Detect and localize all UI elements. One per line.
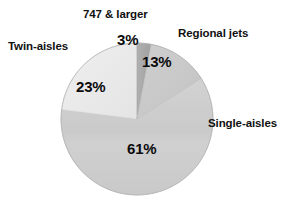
pie-label-747-and-larger: 747 & larger: [83, 8, 148, 20]
pie-value-regional-jets: 13%: [142, 53, 171, 70]
pie-chart-figure: 747 & larger Regional jets Twin-aisles S…: [0, 0, 293, 211]
pie-value-single-aisles: 61%: [127, 140, 156, 157]
pie-label-twin-aisles: Twin-aisles: [8, 40, 68, 52]
pie-label-single-aisles: Single-aisles: [208, 117, 277, 129]
pie-value-twin-aisles: 23%: [76, 78, 105, 95]
pie-label-regional-jets: Regional jets: [178, 27, 248, 39]
pie-value-747-and-larger: 3%: [117, 31, 138, 48]
pie-chart-graphic: [0, 0, 293, 211]
